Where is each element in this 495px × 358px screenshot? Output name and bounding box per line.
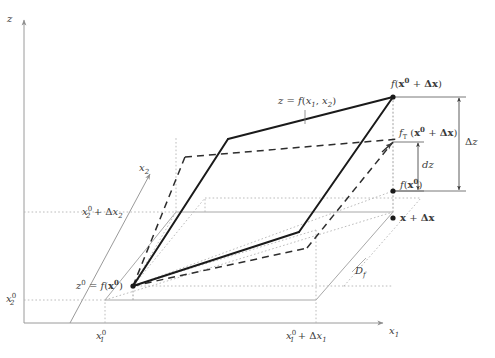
- z-axis-label: z: [7, 14, 12, 24]
- label-f-x0-right: f(x0): [400, 178, 422, 190]
- surface-edge-front: [133, 232, 299, 286]
- label-f-x0-plus-dx: f(x0 + Δx): [391, 77, 442, 89]
- x2-axis-line: [70, 174, 150, 323]
- tick-x1-0: x01: [96, 330, 105, 344]
- dot-x-plus-dx: [390, 215, 395, 220]
- x2-axis-label: x2: [139, 163, 149, 176]
- label-z0-equals-f-x0: z0 = f(x0): [76, 279, 123, 291]
- ft-pointer-arrow: [382, 143, 392, 152]
- tick-x2-0-plus-dx2: x02 + Δx2: [82, 206, 123, 220]
- axis-group: [24, 20, 383, 323]
- tangent-edge-left: [133, 157, 185, 286]
- label-x-plus-dx: x + Δx: [400, 213, 434, 223]
- label-domain-df: Df: [355, 266, 366, 279]
- tangent-edge-front: [133, 248, 307, 286]
- surface-equation-label: z = f(x1, x2): [278, 96, 336, 109]
- dot-f-x0-dx: [390, 94, 395, 99]
- dot-z0-f-x0: [130, 283, 135, 288]
- dot-f-x0-right: [390, 188, 395, 193]
- tick-x2-0: x02: [6, 293, 15, 307]
- figure-canvas: z x1 x2 x01 x01 + Δx1 x02 x02 + Δx2 z = …: [0, 0, 495, 358]
- marker-dots: [130, 94, 395, 288]
- label-dz: dz: [422, 160, 434, 170]
- x1-axis-label: x1: [389, 326, 399, 339]
- guide-diag-domain: [105, 212, 393, 300]
- label-ft-x0-plus-dx: fT (x0 + Δx): [399, 126, 457, 141]
- label-delta-z: Δz: [465, 137, 478, 147]
- tick-x1-0-plus-dx1: x01 + Δx1: [286, 330, 327, 344]
- measure-group: [393, 97, 466, 191]
- domain-edge-side-right: [316, 212, 393, 300]
